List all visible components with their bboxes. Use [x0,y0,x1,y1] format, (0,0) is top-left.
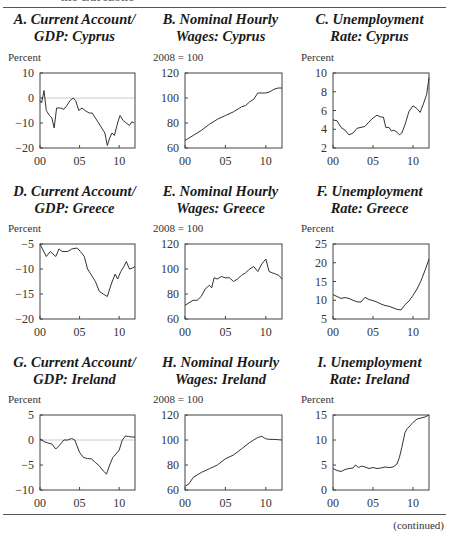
y-tick-label: 0 [28,433,34,447]
plot-frame [333,73,429,148]
x-tick-label: 05 [367,496,379,510]
x-tick-label: 10 [260,325,272,339]
y-tick-label: −10 [15,483,34,497]
y-tick-label: 2 [321,141,327,155]
chart-panel-b: B. Nominal HourlyWages: Cyprus2008 = 100… [146,11,295,181]
line-chart: −10−505000510 [0,354,149,524]
line-chart: −20−15−10−5000510 [0,183,149,353]
y-tick-label: 60 [167,483,179,497]
y-tick-label: −5 [21,458,34,472]
y-tick-label: 20 [315,256,327,270]
line-chart: −20−10010000510 [0,11,149,181]
plot-frame [185,415,282,490]
x-tick-label: 00 [34,154,46,168]
line-chart: 6080100120000510 [146,354,295,524]
x-tick-label: 10 [260,154,272,168]
x-tick-label: 10 [113,154,125,168]
chart-panel-g: G. Current Account/GDP: IrelandPercent−1… [0,354,149,524]
chart-panel-c: C. UnemploymentRate: CyprusPercent246810… [295,11,444,181]
chart-panel-f: F. UnemploymentRate: GreecePercent510152… [295,183,444,353]
y-tick-label: 8 [321,85,327,99]
plot-frame [333,244,429,319]
y-tick-label: −20 [15,141,34,155]
plot-frame [40,73,135,148]
chart-panel-h: H. Nominal HourlyWages: Ireland2008 = 10… [146,354,295,524]
y-tick-label: 120 [161,66,179,80]
header-fragment: the Eurozone [60,0,135,4]
y-tick-label: 80 [167,116,179,130]
x-tick-label: 05 [74,496,86,510]
line-chart: 051015000510 [295,354,444,524]
line-chart: 6080100120000510 [146,11,295,181]
y-tick-label: 10 [22,66,34,80]
x-tick-label: 00 [327,154,339,168]
y-tick-label: 5 [321,312,327,326]
x-tick-label: 05 [219,325,231,339]
y-tick-label: −15 [15,287,34,301]
data-line [40,91,134,146]
line-chart: 246810000510 [295,11,444,181]
line-chart: 510152025000510 [295,183,444,353]
y-tick-label: 10 [315,433,327,447]
data-line [40,436,135,474]
chart-panel-a: A. Current Account/GDP: CyprusPercent−20… [0,11,149,181]
y-tick-label: 60 [167,141,179,155]
data-line [185,259,282,305]
y-tick-label: 80 [167,458,179,472]
y-tick-label: −20 [15,312,34,326]
x-tick-label: 05 [367,154,379,168]
y-tick-label: 100 [161,91,179,105]
y-tick-label: 25 [315,237,327,251]
x-tick-label: 00 [179,154,191,168]
y-tick-label: 100 [161,262,179,276]
y-tick-label: −10 [15,262,34,276]
x-tick-label: 05 [367,325,379,339]
y-tick-label: 15 [315,275,327,289]
data-line [185,436,282,486]
continued-note: (continued) [393,519,444,531]
x-tick-label: 05 [74,154,86,168]
y-tick-label: 10 [315,66,327,80]
y-tick-label: 4 [321,122,327,136]
bottom-rule [3,514,446,515]
data-line [333,415,429,472]
x-tick-label: 05 [219,496,231,510]
y-tick-label: 6 [321,104,327,118]
x-tick-label: 00 [327,496,339,510]
chart-panel-i: I. UnemploymentRate: IrelandPercent05101… [295,354,444,524]
x-tick-label: 10 [113,496,125,510]
x-tick-label: 00 [34,496,46,510]
y-tick-label: 0 [321,483,327,497]
y-tick-label: 5 [28,408,34,422]
x-tick-label: 00 [34,325,46,339]
y-tick-label: 80 [167,287,179,301]
y-tick-label: 0 [28,91,34,105]
chart-panel-e: E. Nominal HourlyWages: Greece2008 = 100… [146,183,295,353]
data-line [333,259,429,310]
y-tick-label: 10 [315,293,327,307]
y-tick-label: −10 [15,116,34,130]
x-tick-label: 10 [407,154,419,168]
chart-panel-d: D. Current Account/GDP: GreecePercent−20… [0,183,149,353]
x-tick-label: 05 [74,325,86,339]
x-tick-label: 10 [407,325,419,339]
x-tick-label: 05 [219,154,231,168]
line-chart: 6080100120000510 [146,183,295,353]
data-line [185,88,282,141]
x-tick-label: 00 [179,496,191,510]
y-tick-label: 15 [315,408,327,422]
y-tick-label: 120 [161,237,179,251]
x-tick-label: 10 [113,325,125,339]
y-tick-label: 5 [321,458,327,472]
data-line [40,244,135,297]
plot-frame [185,73,282,148]
top-rule [3,7,446,8]
plot-frame [40,415,135,490]
x-tick-label: 00 [327,325,339,339]
x-tick-label: 00 [179,325,191,339]
y-tick-label: 120 [161,408,179,422]
y-tick-label: 100 [161,433,179,447]
y-tick-label: 60 [167,312,179,326]
data-line [333,78,429,135]
x-tick-label: 10 [407,496,419,510]
